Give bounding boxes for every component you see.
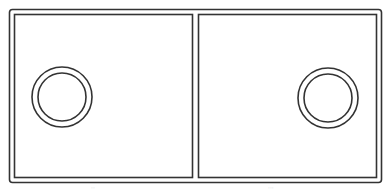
diagram-canvas: ····· xyxy=(0,0,384,190)
inner-ring xyxy=(304,74,352,122)
outer-ring xyxy=(298,68,358,128)
right-panel xyxy=(199,15,377,178)
double-ring-icon xyxy=(32,67,92,127)
inner-ring xyxy=(38,73,86,121)
diagram-svg xyxy=(0,0,384,190)
caption-mark: ·· xyxy=(91,184,95,190)
outer-ring xyxy=(32,67,92,127)
panel-border xyxy=(15,15,193,178)
left-panel xyxy=(15,15,193,178)
double-ring-icon xyxy=(298,68,358,128)
outer-frame xyxy=(10,10,382,183)
panel-border xyxy=(199,15,377,178)
panels-group xyxy=(15,15,377,178)
caption-mark: ··· xyxy=(268,184,274,190)
